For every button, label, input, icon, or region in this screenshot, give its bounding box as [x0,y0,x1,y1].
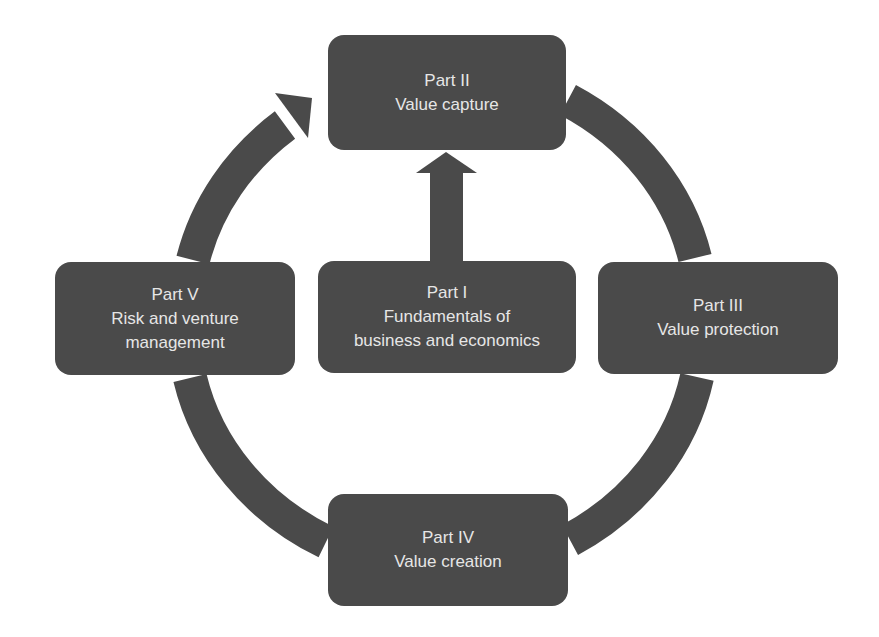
arc-part5-to-part2 [193,125,285,260]
node-label-line2: management [125,331,224,355]
node-label-line2: business and economics [354,329,540,353]
node-title: Part III [693,294,743,318]
arc-part4-to-part5 [190,378,326,542]
node-title: Part V [151,283,198,307]
arrow-shaft-part1-to-part2 [430,170,463,262]
node-label-line1: Fundamentals of [384,305,511,329]
node-label-line1: Risk and venture [111,307,239,331]
node-label: Value protection [657,318,779,342]
arc-part3-to-part4 [570,377,697,540]
arc-part2-to-part3 [568,100,695,258]
node-part3: Part III Value protection [598,262,838,374]
node-title: Part II [424,69,469,93]
node-title: Part IV [422,526,474,550]
node-title: Part I [427,281,468,305]
node-part5: Part V Risk and venture management [55,262,295,375]
node-label: Value creation [394,550,501,574]
node-part1: Part I Fundamentals of business and econ… [318,261,576,373]
arrowhead-up-icon [416,152,477,173]
node-part2: Part II Value capture [328,35,566,150]
node-label: Value capture [395,93,499,117]
node-part4: Part IV Value creation [328,494,568,606]
